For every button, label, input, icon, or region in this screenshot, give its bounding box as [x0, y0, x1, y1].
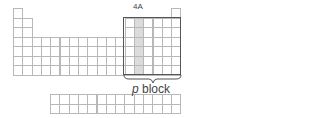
f-block-cell: [171, 104, 181, 115]
p-block-label-text: block: [139, 82, 170, 96]
group-label-4A: 4A: [133, 2, 143, 11]
p-block-outline: [123, 17, 181, 75]
p-block-label: p block: [132, 82, 170, 96]
p-block-label-italic: p: [132, 82, 139, 96]
